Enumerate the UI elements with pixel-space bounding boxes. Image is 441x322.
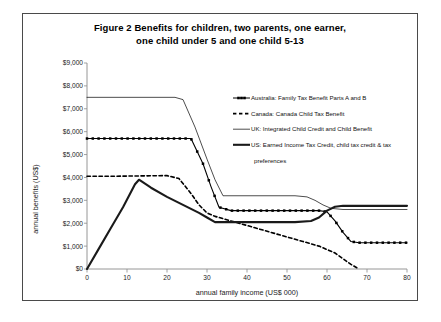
series-marker — [150, 137, 153, 140]
series-marker — [329, 215, 332, 218]
legend-item-label: Canada: Canada Child Tax Benefit — [251, 110, 345, 117]
y-tick-label: $1,000 — [63, 243, 84, 250]
y-tick-label: $0 — [76, 265, 84, 272]
series-marker — [208, 179, 211, 182]
series-line — [87, 139, 407, 243]
y-tick-label: $5,000 — [63, 151, 84, 158]
series-marker — [161, 137, 164, 140]
y-tick-label: $4,000 — [63, 174, 84, 181]
series-marker — [289, 209, 292, 212]
series-marker — [260, 209, 263, 212]
series-marker — [335, 222, 338, 225]
series-marker — [231, 209, 234, 212]
y-axis-title: annual benefits (US$) — [31, 164, 40, 234]
series-marker — [300, 209, 303, 212]
series-marker — [393, 241, 396, 244]
series-marker — [405, 241, 408, 244]
legend-item-label: US: Earned Income Tax Credit, child tax … — [251, 141, 391, 148]
series-marker — [109, 137, 112, 140]
series-line — [87, 180, 407, 269]
series-marker — [121, 137, 124, 140]
legend-item-1: Australia: Family Tax Benefit Parts A an… — [233, 94, 366, 101]
series-marker — [295, 209, 298, 212]
series-marker — [190, 138, 193, 141]
series-marker — [364, 241, 367, 244]
series-marker — [103, 137, 106, 140]
legend-item-label: Australia: Family Tax Benefit Parts A an… — [251, 94, 366, 101]
y-tick-label: $2,000 — [63, 220, 84, 227]
x-axis-ticks: 01020304050607080 — [85, 269, 411, 281]
series-marker — [179, 137, 182, 140]
series-marker — [277, 209, 280, 212]
series-marker — [173, 137, 176, 140]
x-tick-label: 10 — [123, 274, 131, 281]
series-marker — [242, 209, 245, 212]
x-tick-label: 70 — [363, 274, 371, 281]
series-marker — [358, 241, 361, 244]
series-marker — [370, 241, 373, 244]
series-marker — [399, 241, 402, 244]
legend-swatch-marker — [237, 97, 240, 100]
figure-frame: Figure 2 Benefits for children, two pare… — [22, 13, 418, 301]
series-marker — [341, 230, 344, 233]
x-tick-label: 20 — [163, 274, 171, 281]
series-marker — [271, 209, 274, 212]
chart-plot: annual benefits (US$) $0$1,000$2,000$3,0… — [23, 14, 419, 302]
legend-item-4: US: Earned Income Tax Credit, child tax … — [233, 141, 391, 148]
series-marker — [92, 137, 95, 140]
series-marker — [283, 209, 286, 212]
x-tick-label: 60 — [323, 274, 331, 281]
legend-swatch-marker — [240, 97, 243, 100]
series-4 — [87, 180, 407, 269]
series-marker — [138, 137, 141, 140]
legend-item-2: Canada: Canada Child Tax Benefit — [233, 110, 345, 117]
y-tick-label: $3,000 — [63, 197, 84, 204]
series-marker — [237, 209, 240, 212]
x-tick-label: 30 — [203, 274, 211, 281]
y-tick-label: $7,000 — [63, 105, 84, 112]
legend-item-3: UK: Integrated Child Credit and Child Be… — [233, 125, 372, 132]
x-tick-label: 0 — [85, 274, 89, 281]
y-tick-label: $8,000 — [63, 82, 84, 89]
y-axis-title-text: annual benefits (US$) — [31, 164, 40, 234]
series-marker — [86, 137, 89, 140]
series-layer — [86, 97, 408, 269]
series-marker — [254, 209, 257, 212]
y-tick-label: $6,000 — [63, 128, 84, 135]
series-marker — [306, 209, 309, 212]
chart-legend: Australia: Family Tax Benefit Parts A an… — [233, 94, 391, 163]
series-marker — [213, 195, 216, 198]
series-marker — [202, 162, 205, 165]
series-marker — [225, 208, 228, 211]
series-1 — [86, 137, 408, 244]
legend-item-5: preferences — [254, 157, 286, 164]
series-marker — [167, 137, 170, 140]
series-marker — [184, 137, 187, 140]
series-marker — [347, 237, 350, 240]
series-marker — [266, 209, 269, 212]
series-marker — [219, 206, 222, 209]
series-marker — [132, 137, 135, 140]
x-tick-label: 80 — [403, 274, 411, 281]
series-marker — [144, 137, 147, 140]
series-marker — [353, 241, 356, 244]
y-axis-ticks: $0$1,000$2,000$3,000$4,000$5,000$6,000$7… — [63, 59, 87, 272]
series-marker — [318, 209, 321, 212]
series-marker — [97, 137, 100, 140]
series-marker — [248, 209, 251, 212]
series-marker — [196, 150, 199, 153]
x-tick-label: 50 — [283, 274, 291, 281]
series-marker — [155, 137, 158, 140]
series-marker — [376, 241, 379, 244]
legend-item-label: preferences — [254, 157, 286, 164]
legend-item-label: UK: Integrated Child Credit and Child Be… — [251, 125, 372, 132]
series-marker — [115, 137, 118, 140]
y-tick-label: $9,000 — [63, 59, 84, 66]
x-axis-title-text: annual family income (US$ 000) — [196, 288, 298, 297]
series-marker — [387, 241, 390, 244]
series-marker — [382, 241, 385, 244]
x-tick-label: 40 — [243, 274, 251, 281]
series-marker — [126, 137, 129, 140]
legend-swatch-marker — [243, 97, 246, 100]
series-marker — [312, 209, 315, 212]
